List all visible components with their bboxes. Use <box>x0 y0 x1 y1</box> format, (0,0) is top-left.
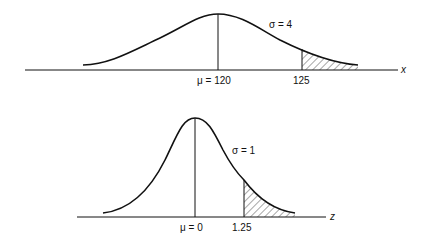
cutoff-label: 1.25 <box>232 222 252 233</box>
sigma-label: σ = 4 <box>269 19 293 30</box>
sigma-label: σ = 1 <box>232 145 256 156</box>
mean-label: μ = 0 <box>180 222 203 233</box>
cutoff-label: 125 <box>293 75 310 86</box>
mean-label: μ = 120 <box>197 75 231 86</box>
x-axis-label: x <box>400 64 407 75</box>
shaded-tail-region <box>300 45 360 71</box>
bell-curve <box>103 118 295 213</box>
top-normal-curve-chart: x σ = 4 μ = 120 125 <box>25 14 407 86</box>
normal-distribution-diagram: x σ = 4 μ = 120 125 z σ = 1 μ = 0 1.25 <box>0 0 426 234</box>
bottom-standard-normal-chart: z σ = 1 μ = 0 1.25 <box>77 118 335 233</box>
z-axis-label: z <box>329 211 335 222</box>
